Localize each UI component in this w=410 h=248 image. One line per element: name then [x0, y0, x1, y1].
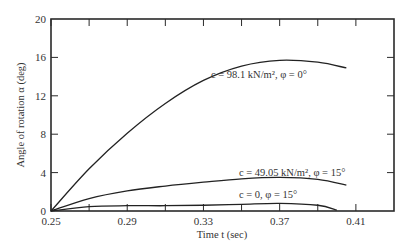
y-tick-label: 12 — [35, 90, 46, 102]
axis-ticks: 0.250.290.330.370.41048121620 — [35, 13, 394, 227]
annotation-series-2: c = 49.05 kN/m², φ = 15° — [239, 167, 345, 178]
x-tick-label: 0.37 — [270, 215, 290, 227]
y-tick-label: 8 — [41, 128, 47, 140]
chart: 0.250.290.330.370.41048121620 c = 98.1 k… — [0, 0, 410, 248]
y-tick-label: 16 — [35, 51, 47, 63]
y-tick-label: 20 — [35, 13, 47, 25]
data-series — [51, 60, 346, 211]
series-line-3 — [51, 203, 337, 211]
y-tick-label: 4 — [41, 167, 47, 179]
x-axis-label: Time t (sec) — [197, 229, 248, 241]
x-tick-label: 0.41 — [346, 215, 365, 227]
series-line-1 — [51, 60, 346, 211]
x-tick-label: 0.29 — [118, 215, 138, 227]
y-axis-label: Angle of rotation α (deg) — [15, 62, 27, 168]
annotation-series-3: c = 0, φ = 15° — [239, 189, 297, 200]
annotation-series-1: c = 98.1 kN/m², φ = 0° — [211, 69, 307, 80]
x-tick-label: 0.33 — [194, 215, 214, 227]
plot-frame — [51, 19, 394, 211]
y-tick-label: 0 — [41, 205, 47, 217]
